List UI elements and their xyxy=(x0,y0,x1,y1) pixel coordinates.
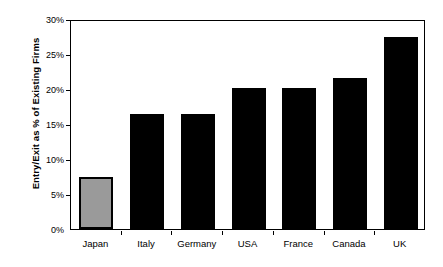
y-tick-mark xyxy=(66,20,70,21)
x-tick-mark xyxy=(121,231,122,235)
y-axis-tick-labels: 0%5%10%15%20%25%30% xyxy=(34,0,64,267)
y-tick-mark xyxy=(66,90,70,91)
y-tick-mark xyxy=(66,160,70,161)
bar-japan xyxy=(79,177,113,230)
bar-chart: Entry/Exit as % of Existing Firms 0%5%10… xyxy=(0,0,443,267)
x-tick-mark xyxy=(273,231,274,235)
x-tick-label: Japan xyxy=(82,238,108,249)
y-tick-label: 15% xyxy=(46,121,64,130)
y-tick-label: 10% xyxy=(46,156,64,165)
y-tick-mark xyxy=(66,195,70,196)
x-tick-mark xyxy=(374,231,375,235)
bar-usa xyxy=(232,88,266,229)
y-tick-label: 0% xyxy=(51,226,64,235)
y-tick-mark xyxy=(66,55,70,56)
x-tick-label: France xyxy=(283,238,313,249)
y-tick-mark xyxy=(66,125,70,126)
y-tick-label: 30% xyxy=(46,16,64,25)
x-tick-label: USA xyxy=(238,238,258,249)
y-tick-label: 20% xyxy=(46,86,64,95)
x-tick-label: UK xyxy=(393,238,406,249)
bar-france xyxy=(282,88,316,229)
bar-germany xyxy=(181,114,215,230)
x-tick-label: Italy xyxy=(137,238,154,249)
x-tick-label: Canada xyxy=(332,238,365,249)
bar-canada xyxy=(333,78,367,229)
x-tick-mark xyxy=(324,231,325,235)
x-tick-mark xyxy=(171,231,172,235)
bar-uk xyxy=(384,37,418,230)
bar-italy xyxy=(130,114,164,229)
plot-area xyxy=(70,20,425,230)
x-tick-mark xyxy=(222,231,223,235)
x-axis-tick-labels: JapanItalyGermanyUSAFranceCanadaUK xyxy=(0,238,443,254)
clipped-title-artifact xyxy=(0,0,443,7)
y-tick-label: 5% xyxy=(51,191,64,200)
x-tick-label: Germany xyxy=(177,238,216,249)
y-tick-label: 25% xyxy=(46,51,64,60)
